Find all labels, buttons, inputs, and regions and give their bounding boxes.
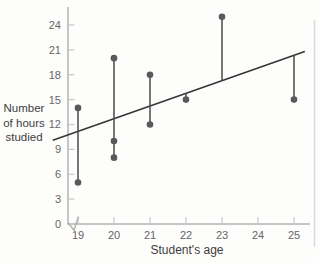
y-tick-label: 9 xyxy=(55,143,61,155)
y-tick-label: 15 xyxy=(49,94,61,106)
data-point xyxy=(147,71,154,78)
y-axis-title-line: Number xyxy=(0,101,48,116)
data-point xyxy=(183,96,190,103)
data-point xyxy=(111,55,118,62)
data-point xyxy=(147,121,154,128)
data-point xyxy=(291,96,298,103)
x-axis-title: Student's age xyxy=(127,243,247,257)
y-axis-title: Number of hours studied xyxy=(0,101,48,145)
scatter-plot-figure: 0369121518212419202122232425 Number of h… xyxy=(0,0,319,263)
x-tick-label: 23 xyxy=(216,229,228,241)
y-tick-label: 3 xyxy=(55,193,61,205)
y-tick-label: 6 xyxy=(55,168,61,180)
x-tick-label: 22 xyxy=(180,229,192,241)
data-point xyxy=(219,13,226,20)
data-point xyxy=(111,154,118,161)
y-axis-title-line: of hours xyxy=(0,116,48,131)
y-tick-label: 21 xyxy=(49,44,61,56)
x-tick-label: 25 xyxy=(288,229,300,241)
x-tick-label: 24 xyxy=(252,229,264,241)
data-point xyxy=(111,138,118,145)
regression-line xyxy=(53,51,305,140)
y-tick-label: 18 xyxy=(49,69,61,81)
x-tick-label: 21 xyxy=(144,229,156,241)
y-tick-label: 0 xyxy=(55,218,61,230)
data-point xyxy=(75,179,82,186)
y-tick-label: 24 xyxy=(49,19,61,31)
x-tick-label: 20 xyxy=(108,229,120,241)
y-tick-label: 12 xyxy=(49,118,61,130)
y-axis-title-line: studied xyxy=(0,130,48,145)
data-point xyxy=(75,105,82,112)
